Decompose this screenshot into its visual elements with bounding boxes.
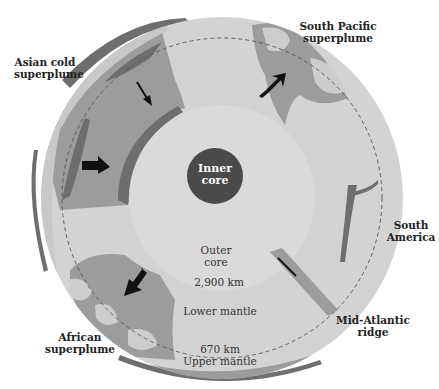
label-line: America xyxy=(383,231,439,243)
label-line: Outer xyxy=(186,244,246,256)
label-line: superplume xyxy=(44,343,116,355)
label-lower-mantle: Lower mantle xyxy=(172,305,268,317)
label-line: core xyxy=(186,256,246,268)
label-asian-cold-superplume: Asian cold superplume xyxy=(14,56,76,80)
label-line: ridge xyxy=(333,326,413,338)
label-line: superplume xyxy=(14,68,76,80)
label-line: superplume xyxy=(293,32,383,44)
label-depth-2900km: 2,900 km xyxy=(184,276,254,288)
label-south-america: South America xyxy=(383,219,439,243)
label-depth-670km: 670 km xyxy=(190,343,250,355)
label-line: Mid-Atlantic xyxy=(333,314,413,326)
label-mid-atlantic-ridge: Mid-Atlantic ridge xyxy=(333,314,413,338)
label-african-superplume: African superplume xyxy=(44,331,116,355)
label-line: Asian cold xyxy=(14,56,76,68)
label-upper-mantle: Upper mantle xyxy=(172,355,268,367)
label-line: South Pacific xyxy=(293,20,383,32)
label-south-pacific-superplume: South Pacific superplume xyxy=(293,20,383,44)
label-inner-core: Inner core xyxy=(187,163,243,187)
label-line: African xyxy=(44,331,116,343)
label-outer-core: Outer core xyxy=(186,244,246,268)
label-line: core xyxy=(187,175,243,187)
label-line: South xyxy=(383,219,439,231)
